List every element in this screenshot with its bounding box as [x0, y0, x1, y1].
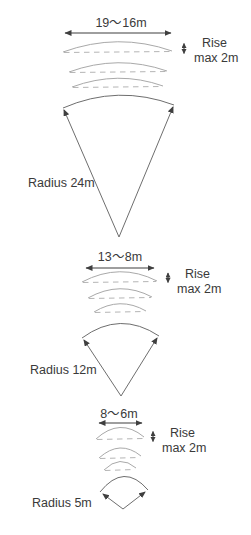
spread-chord-1: [97, 439, 143, 440]
spread-chord-3: [105, 470, 135, 471]
spread-arc-1: [63, 42, 172, 52]
spread-chord-2: [70, 72, 166, 73]
spread-arc-2: [88, 289, 152, 298]
sector-arc: [100, 476, 148, 492]
radius-label: Radius 24m: [28, 176, 95, 190]
spread-chord-3: [73, 87, 162, 88]
fan-sector-diagram: 19～16m Rise max 2m Radius 24m 13～8m Rise…: [0, 0, 251, 535]
rise-label-line2: max 2m: [162, 441, 206, 455]
spread-arc-1: [96, 427, 144, 439]
rise-label-line1: Rise: [170, 426, 195, 440]
radius-line-left: [64, 110, 119, 237]
spread-arc-3: [104, 461, 136, 470]
radius-line-right: [121, 338, 157, 396]
radius-line-left: [103, 494, 123, 509]
section-radius-12m: 13～8m Rise max 2m Radius 12m: [30, 250, 221, 396]
rise-label-line1: Rise: [202, 36, 227, 50]
rise-label-line2: max 2m: [194, 51, 238, 65]
spread-arc-2: [69, 63, 167, 72]
rise-label-line1: Rise: [185, 267, 210, 281]
sector-arc: [82, 323, 159, 338]
spread-arc-3: [72, 78, 163, 87]
section-radius-5m: 8～6m Rise max 2m Radius 5m: [32, 407, 206, 510]
width-label: 8～6m: [100, 407, 137, 421]
width-label: 13～8m: [98, 250, 142, 264]
spread-arc-3: [94, 304, 146, 312]
spread-chord-3: [95, 312, 145, 313]
spread-arc-2: [99, 448, 141, 458]
radius-line-right: [119, 107, 173, 237]
radius-line-right: [123, 492, 145, 509]
section-radius-24m: 19～16m Rise max 2m Radius 24m: [28, 16, 238, 237]
spread-chord-2: [100, 458, 140, 459]
radius-label: Radius 12m: [30, 363, 97, 377]
spread-arc-1: [82, 272, 157, 282]
radius-label: Radius 5m: [32, 496, 92, 510]
spread-chord-1: [83, 282, 156, 283]
spread-chord-2: [89, 298, 151, 299]
sector-arc: [63, 95, 174, 108]
rise-label-line2: max 2m: [177, 282, 221, 296]
spread-chord-1: [64, 52, 171, 53]
width-label: 19～16m: [95, 16, 146, 30]
